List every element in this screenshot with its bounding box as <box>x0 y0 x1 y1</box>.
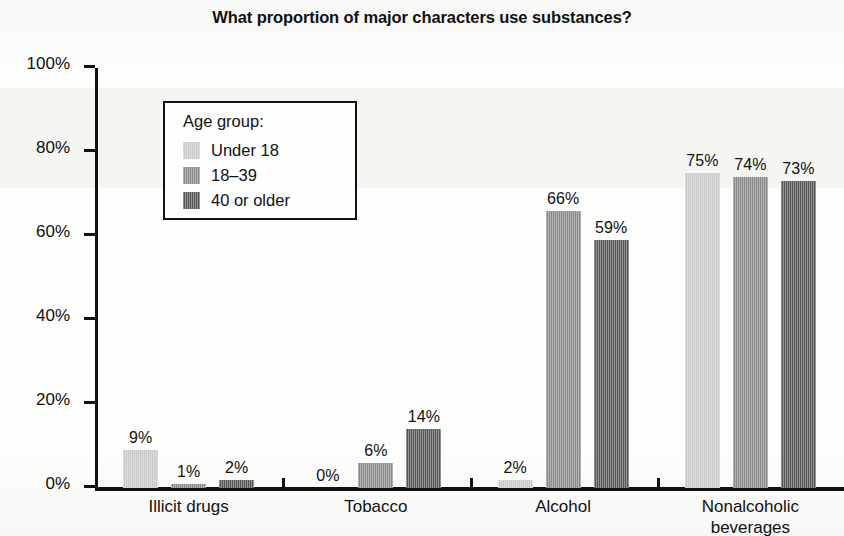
bar-value-label: 9% <box>129 429 152 447</box>
bar: 9% <box>123 450 158 488</box>
legend: Age group: Under 1818–3940 or older <box>163 101 357 220</box>
bar: 2% <box>219 480 254 488</box>
bar: 14% <box>406 429 441 488</box>
y-axis-tick-label: 40% <box>0 306 70 326</box>
bar: 6% <box>358 463 393 488</box>
legend-label: 40 or older <box>211 191 290 210</box>
bar-value-label: 2% <box>225 459 248 477</box>
x-axis-separator <box>470 478 473 491</box>
x-axis-separator <box>282 478 285 491</box>
legend-swatch <box>183 142 200 159</box>
legend-swatch <box>183 167 200 184</box>
y-axis-tick-label: 60% <box>0 222 70 242</box>
bar-value-label: 59% <box>595 219 627 237</box>
bar-value-label: 14% <box>408 408 440 426</box>
legend-label: Under 18 <box>211 141 279 160</box>
legend-row: Under 18 <box>183 138 355 163</box>
bar-value-label: 73% <box>782 160 814 178</box>
y-axis-tick: 20% <box>84 401 95 404</box>
bar: 73% <box>781 181 816 488</box>
bar: 74% <box>733 177 768 488</box>
legend-rows: Under 1818–3940 or older <box>183 138 355 213</box>
bar-value-label: 1% <box>177 463 200 481</box>
bar: 59% <box>594 240 629 488</box>
x-axis-separator <box>657 478 660 491</box>
y-axis-tick: 80% <box>84 149 95 152</box>
legend-label: 18–39 <box>211 166 257 185</box>
bar-value-label: 0% <box>316 467 339 485</box>
legend-title: Age group: <box>183 112 355 131</box>
category-label: Tobacco <box>282 496 469 517</box>
y-axis-tick-label: 80% <box>0 138 70 158</box>
legend-swatch <box>183 192 200 209</box>
y-axis-line <box>95 68 98 488</box>
category-label: Alcohol <box>470 496 657 517</box>
y-axis-tick: 40% <box>84 317 95 320</box>
y-axis-tick: 100% <box>84 65 95 68</box>
bar-chart: What proportion of major characters use … <box>0 0 844 536</box>
y-axis-tick: 60% <box>84 233 95 236</box>
y-axis-tick-label: 0% <box>0 474 70 494</box>
category-label: Nonalcoholic beverages <box>657 496 844 536</box>
y-axis-tick-label: 100% <box>0 54 70 74</box>
bar: 75% <box>685 173 720 488</box>
chart-title: What proportion of major characters use … <box>0 8 844 27</box>
y-axis-tick-label: 20% <box>0 390 70 410</box>
bar-value-label: 2% <box>504 459 527 477</box>
bar: 66% <box>546 211 581 488</box>
bar: 2% <box>498 480 533 488</box>
category-label: Illicit drugs <box>95 496 282 517</box>
bar-value-label: 66% <box>547 190 579 208</box>
bar-value-label: 75% <box>686 152 718 170</box>
bar-value-label: 6% <box>364 442 387 460</box>
bar: 1% <box>171 484 206 488</box>
bar-value-label: 74% <box>734 156 766 174</box>
legend-row: 40 or older <box>183 188 355 213</box>
legend-row: 18–39 <box>183 163 355 188</box>
y-axis-tick: 0% <box>84 485 95 488</box>
